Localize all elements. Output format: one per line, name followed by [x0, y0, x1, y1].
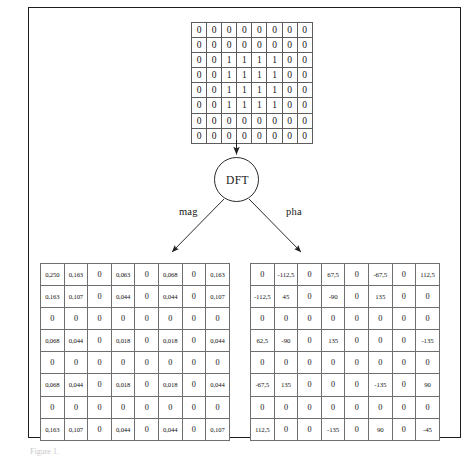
magnitude-cell: 0,107: [206, 286, 230, 308]
magnitude-cell: 0: [206, 396, 230, 418]
magnitude-cell: 0: [182, 352, 206, 374]
input-cell: 1: [222, 83, 237, 98]
input-cell: 0: [267, 38, 282, 53]
phase-cell: -90: [274, 330, 298, 352]
input-cell: 0: [222, 128, 237, 143]
phase-cell: 0: [321, 352, 345, 374]
input-cell: 1: [252, 83, 267, 98]
matrix-row: 0-112,5067,50-67,50112,5: [251, 264, 440, 286]
phase-cell: 0: [345, 396, 369, 418]
matrix-row: 0,0680,04400,01800,01800,044: [41, 330, 230, 352]
input-cell: 0: [207, 83, 222, 98]
matrix-row: 00000000: [192, 23, 313, 38]
phase-cell: 0: [392, 374, 416, 396]
input-cell: 0: [282, 53, 297, 68]
phase-cell: -135: [321, 418, 345, 440]
phase-cell: 0: [321, 308, 345, 330]
input-cell: 1: [267, 53, 282, 68]
matrix-row: 00000000: [192, 38, 313, 53]
magnitude-cell: 0,163: [41, 286, 65, 308]
input-cell: 0: [297, 53, 312, 68]
phase-cell: -67,5: [251, 374, 275, 396]
magnitude-cell: 0,018: [111, 374, 135, 396]
input-cell: 0: [192, 128, 207, 143]
magnitude-cell: 0,163: [41, 418, 65, 440]
phase-cell: 0: [321, 374, 345, 396]
magnitude-cell: 0,068: [41, 374, 65, 396]
magnitude-cell: 0: [88, 308, 112, 330]
magnitude-cell: 0,044: [64, 330, 88, 352]
magnitude-cell: 0: [182, 308, 206, 330]
matrix-row: 00111100: [192, 83, 313, 98]
magnitude-cell: 0: [111, 352, 135, 374]
magnitude-cell: 0: [135, 396, 159, 418]
input-cell: 1: [222, 68, 237, 83]
phase-cell: -90: [321, 286, 345, 308]
phase-cell: 90: [416, 374, 440, 396]
phase-cell: 0: [251, 308, 275, 330]
magnitude-cell: 0: [158, 396, 182, 418]
input-cell: 0: [207, 23, 222, 38]
phase-cell: 0: [368, 330, 392, 352]
magnitude-cell: 0: [111, 396, 135, 418]
input-cell: 1: [222, 98, 237, 113]
magnitude-cell: 0,044: [206, 330, 230, 352]
input-cell: 0: [282, 113, 297, 128]
magnitude-cell: 0: [88, 374, 112, 396]
phase-cell: 135: [368, 286, 392, 308]
input-image-matrix: 0000000000000000001111000011110000111100…: [191, 22, 313, 144]
figure-caption: Figure 1.: [30, 447, 230, 458]
input-cell: 0: [237, 38, 252, 53]
matrix-row: 00111100: [192, 68, 313, 83]
input-cell: 0: [222, 38, 237, 53]
phase-cell: 0: [392, 396, 416, 418]
phase-cell: 0: [274, 308, 298, 330]
phase-cell: 0: [368, 308, 392, 330]
magnitude-cell: 0: [135, 418, 159, 440]
input-cell: 0: [207, 68, 222, 83]
phase-cell: 45: [274, 286, 298, 308]
magnitude-branch-label: mag: [179, 206, 198, 217]
input-cell: 0: [207, 113, 222, 128]
magnitude-cell: 0,044: [158, 418, 182, 440]
matrix-row: 00000000: [41, 396, 230, 418]
input-cell: 1: [252, 53, 267, 68]
matrix-row: 00000000: [41, 308, 230, 330]
input-cell: 0: [207, 98, 222, 113]
input-cell: 0: [297, 113, 312, 128]
input-cell: 0: [252, 23, 267, 38]
input-cell: 0: [282, 83, 297, 98]
magnitude-cell: 0,250: [41, 264, 65, 286]
magnitude-cell: 0: [88, 418, 112, 440]
phase-cell: 0: [345, 352, 369, 374]
magnitude-cell: 0: [182, 418, 206, 440]
phase-cell: 0: [392, 418, 416, 440]
input-cell: 0: [267, 113, 282, 128]
magnitude-cell: 0: [206, 308, 230, 330]
phase-cell: -135: [368, 374, 392, 396]
matrix-row: 62,5-900135000-135: [251, 330, 440, 352]
phase-cell: 0: [298, 374, 322, 396]
magnitude-cell: 0: [135, 352, 159, 374]
matrix-row: 00000000: [192, 128, 313, 143]
phase-cell: 0: [345, 264, 369, 286]
magnitude-cell: 0,044: [111, 286, 135, 308]
magnitude-cell: 0: [135, 264, 159, 286]
matrix-row: 00000000: [251, 396, 440, 418]
phase-cell: 112,5: [251, 418, 275, 440]
input-cell: 0: [282, 98, 297, 113]
magnitude-matrix-body: 0,2500,16300,06300,06800,1630,1630,10700…: [41, 264, 230, 441]
magnitude-cell: 0: [135, 374, 159, 396]
magnitude-cell: 0: [111, 308, 135, 330]
phase-cell: 0: [368, 352, 392, 374]
input-cell: 1: [237, 98, 252, 113]
phase-cell: 0: [274, 418, 298, 440]
input-cell: 1: [252, 68, 267, 83]
phase-cell: 0: [345, 418, 369, 440]
phase-cell: 0: [368, 396, 392, 418]
magnitude-cell: 0: [64, 352, 88, 374]
magnitude-matrix: 0,2500,16300,06300,06800,1630,1630,10700…: [40, 263, 230, 441]
magnitude-cell: 0,107: [206, 418, 230, 440]
magnitude-cell: 0: [135, 286, 159, 308]
input-cell: 0: [207, 38, 222, 53]
